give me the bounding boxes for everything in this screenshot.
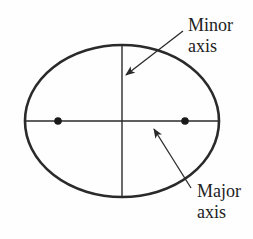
- minor-axis-label: Minor axis: [188, 15, 233, 57]
- focus-point-right: [181, 117, 189, 125]
- ellipse-diagram: Minor axis Major axis: [0, 0, 253, 239]
- major-axis-label-line1: Major: [197, 181, 241, 202]
- major-axis-arrow: [154, 129, 191, 188]
- major-axis-label: Major axis: [197, 181, 241, 223]
- minor-axis-label-line1: Minor: [188, 15, 233, 36]
- minor-axis-label-line2: axis: [188, 36, 233, 57]
- minor-axis-arrow: [126, 31, 183, 75]
- major-axis-label-line2: axis: [197, 202, 241, 223]
- focus-point-left: [54, 117, 62, 125]
